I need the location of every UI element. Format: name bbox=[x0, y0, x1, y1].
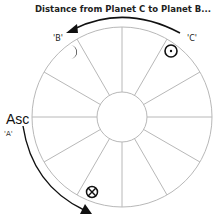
part-of-fortune-icon bbox=[87, 187, 98, 198]
arrow-c-to-b bbox=[74, 17, 180, 33]
sun-icon bbox=[165, 45, 177, 57]
moon-icon bbox=[70, 45, 77, 59]
label-b: 'B' bbox=[53, 34, 63, 43]
inner-wheel-circle bbox=[97, 92, 147, 142]
label-c: 'C' bbox=[187, 34, 197, 43]
ascendant-label: Asc bbox=[6, 111, 29, 127]
label-a: 'A' bbox=[4, 130, 13, 138]
diagram-title: Distance from Planet C to Planet B... bbox=[35, 4, 211, 14]
astrology-wheel-diagram: Distance from Planet C to Planet B... 'B… bbox=[0, 0, 224, 224]
arrowhead-b-icon bbox=[66, 24, 78, 33]
arrow-asc-to-fortune bbox=[23, 126, 84, 210]
